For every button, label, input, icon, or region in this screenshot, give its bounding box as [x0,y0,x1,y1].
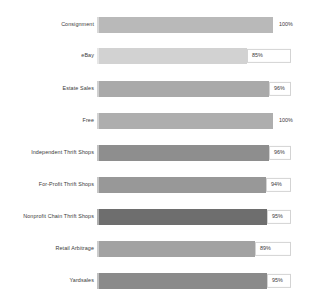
value-label: 89% [255,242,291,256]
bar-track: 96% [97,142,293,164]
chart-row: Nonprofit Chain Thrift Shops 95% [0,206,322,228]
bar[interactable] [97,241,255,257]
value-label: 95% [267,274,291,288]
bar[interactable] [97,273,267,289]
bar-track: 89% [97,238,293,260]
bar[interactable] [97,81,269,97]
chart-row: Retail Arbitrage 89% [0,238,322,260]
bar-track: 96% [97,78,293,100]
bar[interactable] [97,17,273,33]
value-label: 100% [279,22,293,27]
chart-row: For-Profit Thrift Shops 94% [0,174,322,196]
value-label: 94% [266,178,291,192]
horizontal-bar-chart: Consignment 100% eBay 85% Estate Sales 9… [0,0,322,304]
value-label: 95% [267,210,291,224]
value-label: 85% [247,49,291,63]
bar[interactable] [97,177,266,193]
bar-left-cap [97,17,99,33]
category-label: For-Profit Thrift Shops [0,182,94,187]
category-label: Nonprofit Chain Thrift Shops [0,214,94,219]
chart-row: Consignment 100% [0,14,322,36]
chart-row: Yardsales 95% [0,270,322,292]
value-label: 96% [269,146,291,160]
category-label: Retail Arbitrage [0,246,94,251]
bar[interactable] [97,113,273,129]
category-label: Independent Thrift Shops [0,150,94,155]
chart-row: Independent Thrift Shops 96% [0,142,322,164]
bar-left-cap [97,113,99,129]
bar-track: 95% [97,206,293,228]
bar-track: 85% [97,45,293,67]
chart-row: Estate Sales 96% [0,78,322,100]
bar[interactable] [97,145,269,161]
category-label: Yardsales [0,278,94,283]
bar-track: 95% [97,270,293,292]
bar-track: 100% [97,110,293,132]
bar[interactable] [97,209,267,225]
category-label: Free [0,118,94,123]
category-label: eBay [0,53,94,58]
bar-left-cap [97,81,99,97]
chart-row: Free 100% [0,110,322,132]
category-label: Estate Sales [0,86,94,91]
category-label: Consignment [0,22,94,27]
value-label: 96% [269,82,291,96]
bar-track: 94% [97,174,293,196]
bar-left-cap [97,145,99,161]
bar-left-cap [97,209,99,225]
bar-left-cap [97,48,99,64]
bar[interactable] [97,48,247,64]
bar-left-cap [97,273,99,289]
bar-left-cap [97,241,99,257]
bar-track: 100% [97,14,293,36]
bar-left-cap [97,177,99,193]
value-label: 100% [279,118,293,123]
chart-row: eBay 85% [0,45,322,67]
